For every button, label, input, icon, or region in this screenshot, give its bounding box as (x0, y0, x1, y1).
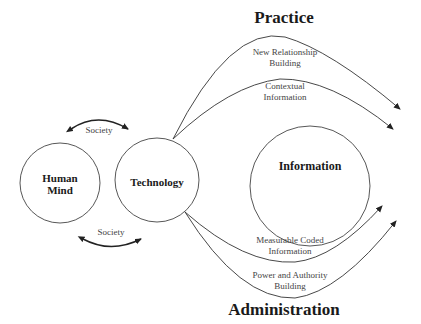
practice-title: Practice (254, 8, 313, 28)
human-mind-line1: Human (42, 172, 77, 184)
human-mind-label: Human Mind (42, 172, 77, 196)
power-line1: Power and Authority (253, 270, 328, 281)
society-bottom-arrow (83, 239, 141, 247)
contextual-line1: Contextual (264, 81, 307, 92)
society-top-label: Society (86, 125, 113, 136)
new-relationship-line1: New Relationship (253, 47, 318, 58)
information-label: Information (279, 160, 342, 172)
power-authority-label: Power and Authority Building (253, 270, 328, 292)
new-relationship-label: New Relationship Building (253, 47, 318, 69)
measurable-line1: Measurable Coded (256, 235, 324, 246)
administration-title: Administration (228, 300, 339, 320)
diagram-canvas (0, 0, 421, 324)
power-line2: Building (253, 281, 328, 292)
contextual-information-label: Contextual Information (264, 81, 307, 103)
measurable-coded-label: Measurable Coded Information (256, 235, 324, 257)
new-relationship-line2: Building (253, 58, 318, 69)
measurable-line2: Information (256, 246, 324, 257)
contextual-line2: Information (264, 92, 307, 103)
information-circle (250, 126, 370, 246)
technology-label: Technology (130, 176, 183, 188)
human-mind-line2: Mind (42, 184, 77, 196)
society-bottom-label: Society (98, 227, 125, 238)
